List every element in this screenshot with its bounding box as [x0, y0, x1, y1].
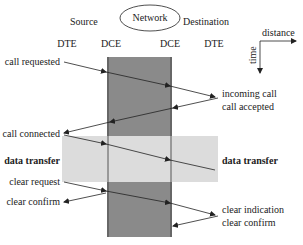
- destination-clear-confirm-label: clear confirm: [222, 217, 276, 228]
- clear-request-arrow-dte-dce: [64, 182, 106, 191]
- time-axis-label: time: [247, 46, 258, 64]
- call-requested-label: call requested: [5, 56, 60, 67]
- column-source-dce: DCE: [101, 38, 121, 49]
- source-label: Source: [70, 16, 98, 27]
- distance-axis-label: distance: [262, 27, 295, 38]
- column-destination-dte: DTE: [204, 38, 223, 49]
- call-accepted-arrow: [173, 98, 218, 108]
- column-source-dte: DTE: [57, 38, 76, 49]
- clear-confirm-dest-arrow: [173, 216, 218, 226]
- incoming-call-label: incoming call: [222, 88, 277, 99]
- clear-confirm-source-arrow: [64, 193, 106, 202]
- clear-indication-arrow: [170, 203, 215, 215]
- call-connected-label: call connected: [3, 128, 60, 139]
- clear-indication-label: clear indication: [222, 204, 284, 215]
- source-data-transfer-label: data transfer: [4, 155, 60, 166]
- incoming-call-arrow: [170, 86, 215, 97]
- network-label: Network: [133, 12, 168, 23]
- clear-request-label: clear request: [9, 176, 60, 187]
- call-connected-arrow: [64, 122, 110, 133]
- destination-data-transfer-label: data transfer: [222, 155, 278, 166]
- call-accepted-label: call accepted: [222, 101, 274, 112]
- destination-label: Destination: [183, 16, 229, 27]
- data-transfer-band: [62, 136, 218, 182]
- call-request-arrow-dte-dce: [64, 62, 106, 72]
- virtual-circuit-diagram: Source Network Destination DTE DCE DCE D…: [0, 0, 303, 245]
- source-clear-confirm-label: clear confirm: [6, 196, 60, 207]
- column-destination-dce: DCE: [160, 38, 180, 49]
